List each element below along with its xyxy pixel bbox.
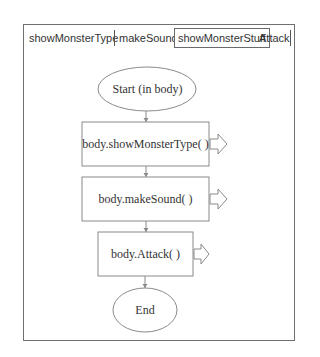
- tab-show-monster-type[interactable]: showMonsterType: [29, 31, 118, 45]
- tab-make-sound[interactable]: makeSound: [119, 31, 178, 45]
- tab-attack[interactable]: Attack: [259, 31, 290, 45]
- tab-divider: [290, 30, 291, 46]
- tab-show-monster-stuff[interactable]: showMonsterStuff: [174, 28, 270, 48]
- flowchart-frame: showMonsterType makeSound showMonsterStu…: [23, 24, 295, 341]
- method-tab-bar: showMonsterType makeSound showMonsterStu…: [24, 25, 294, 51]
- tab-divider: [114, 30, 115, 46]
